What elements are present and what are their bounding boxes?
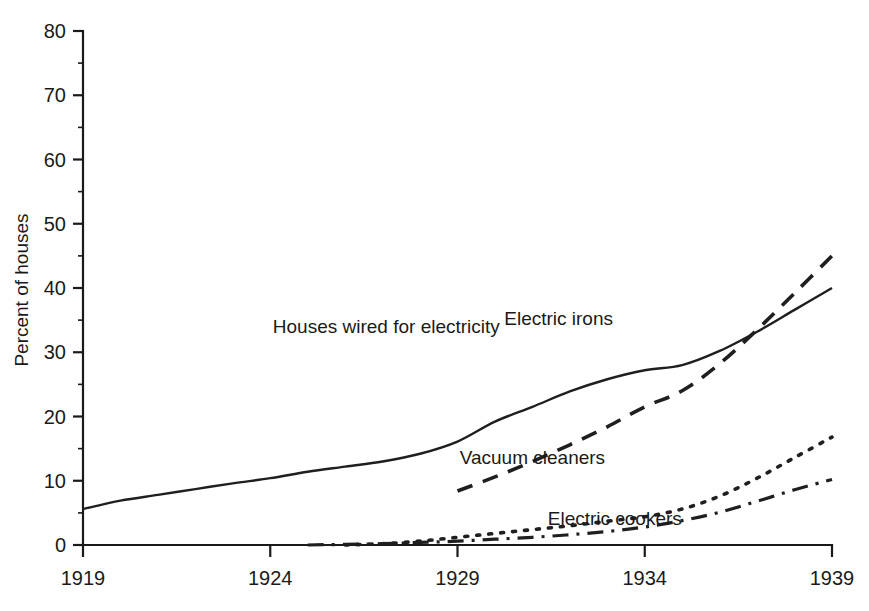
series-label-vacuum-cleaners: Vacuum cleaners	[460, 447, 605, 468]
y-tick-label: 40	[44, 277, 66, 299]
x-tick-label: 1924	[248, 567, 293, 589]
y-axis-tick-labels: 01020304050607080	[44, 20, 66, 556]
y-tick-label: 10	[44, 470, 66, 492]
y-tick-label: 50	[44, 213, 66, 235]
x-tick-label: 1919	[61, 567, 106, 589]
chart-container: Percent of houses 01020304050607080 1919…	[0, 0, 869, 611]
series-label-electric-irons: Electric irons	[504, 308, 613, 329]
y-tick-label: 60	[44, 149, 66, 171]
y-axis-title: Percent of houses	[11, 213, 32, 366]
y-tick-label: 30	[44, 341, 66, 363]
x-tick-label: 1929	[435, 567, 480, 589]
y-tick-label: 80	[44, 20, 66, 42]
y-tick-label: 20	[44, 406, 66, 428]
x-tick-label: 1934	[623, 567, 668, 589]
line-chart: Percent of houses 01020304050607080 1919…	[0, 0, 869, 611]
series-label-houses-wired-for-electricity: Houses wired for electricity	[273, 316, 501, 337]
y-tick-label: 70	[44, 84, 66, 106]
series-label-electric-cookers: Electric cookers	[548, 508, 682, 529]
y-tick-label: 0	[55, 534, 66, 556]
x-tick-label: 1939	[810, 567, 855, 589]
chart-background	[0, 0, 869, 611]
